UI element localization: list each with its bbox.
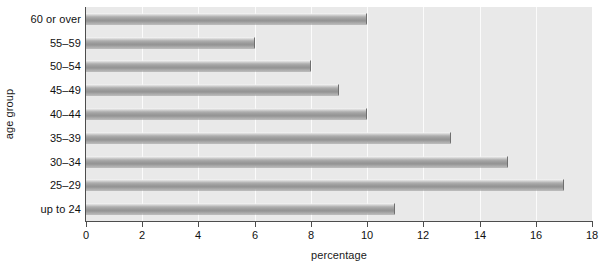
x-axis-tick-mark <box>423 222 424 227</box>
y-axis-title: age group <box>0 0 18 228</box>
y-axis-tick-label: 45–49 <box>50 84 81 96</box>
x-axis-tick-label: 8 <box>308 229 314 241</box>
y-axis-tick-label: 55–59 <box>50 37 81 49</box>
x-axis-tick-label: 12 <box>417 229 429 241</box>
bar <box>86 85 339 96</box>
x-axis-title: percentage <box>86 249 592 261</box>
bar <box>86 61 311 72</box>
x-axis-ticks: 024681012141618 <box>86 222 592 252</box>
y-axis-tick-label: 35–39 <box>50 132 81 144</box>
x-axis-tick-mark <box>592 222 593 227</box>
x-axis-tick-label: 16 <box>530 229 542 241</box>
y-axis-tick-label: 40–44 <box>50 108 81 120</box>
bar <box>86 13 367 24</box>
bar <box>86 156 508 167</box>
y-axis-tick-label: 50–54 <box>50 60 81 72</box>
x-axis-tick-mark <box>367 222 368 227</box>
bar-chart: age group up to 2425–2930–3435–3940–4445… <box>0 0 614 273</box>
bar <box>86 37 255 48</box>
x-axis-tick-mark <box>198 222 199 227</box>
x-axis-tick-label: 14 <box>474 229 486 241</box>
x-axis-tick-label: 4 <box>195 229 201 241</box>
bar <box>86 180 564 191</box>
bar <box>86 132 451 143</box>
y-axis-tick-label: 25–29 <box>50 179 81 191</box>
x-axis-tick-label: 18 <box>586 229 598 241</box>
x-axis-tick-mark <box>311 222 312 227</box>
x-axis-tick-mark <box>536 222 537 227</box>
y-axis-tick-label: 60 or over <box>30 13 81 25</box>
plot-area <box>86 7 592 221</box>
y-axis-tick-label: 30–34 <box>50 156 81 168</box>
x-axis-tick-mark <box>142 222 143 227</box>
x-axis-tick-mark <box>480 222 481 227</box>
y-axis-tick-labels: up to 2425–2930–3435–3940–4445–4950–5455… <box>18 7 85 221</box>
x-axis-tick-label: 0 <box>83 229 89 241</box>
x-axis-tick-label: 2 <box>139 229 145 241</box>
x-axis-tick-mark <box>86 222 87 227</box>
bar <box>86 204 395 215</box>
y-axis-title-label: age group <box>3 89 15 139</box>
x-axis-tick-mark <box>255 222 256 227</box>
y-axis-tick-label: up to 24 <box>40 203 81 215</box>
x-axis-tick-label: 10 <box>361 229 373 241</box>
bar <box>86 109 367 120</box>
y-axis-line <box>85 7 86 222</box>
x-axis-tick-label: 6 <box>252 229 258 241</box>
